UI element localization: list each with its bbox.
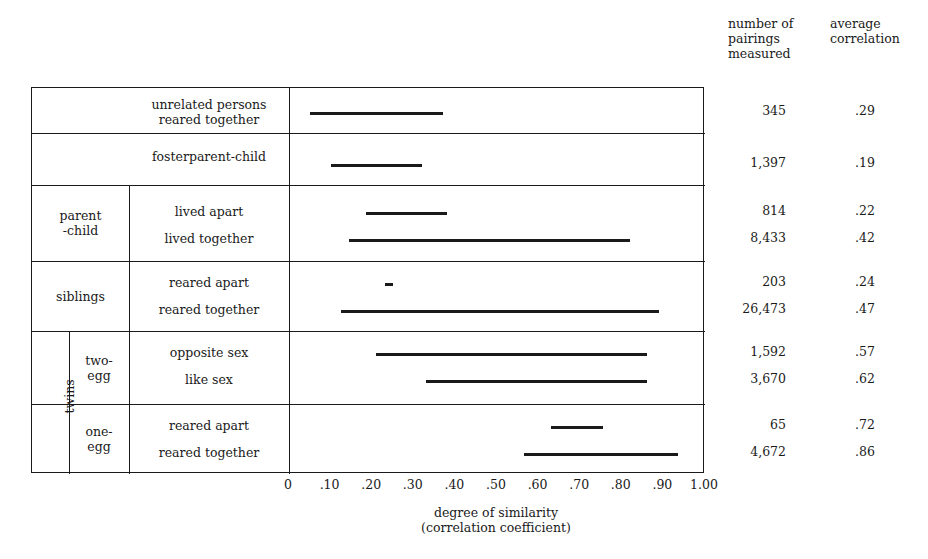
- range-bar: [341, 310, 659, 313]
- subgroup-label-two-egg: two- egg: [69, 331, 129, 404]
- cell-pairings: 345: [706, 103, 786, 118]
- cell-correlation: .29: [815, 103, 875, 118]
- range-bar: [524, 453, 678, 456]
- cell-pairings: 1,397: [706, 155, 786, 170]
- axis-tick-label: .50: [476, 478, 516, 492]
- row-label-unrelated: unrelated persons reared together: [129, 97, 289, 127]
- similarity-correlation-chart: number of pairings measured average corr…: [0, 0, 928, 559]
- cell-correlation: .42: [815, 230, 875, 245]
- x-axis-caption: degree of similarity (correlation coeffi…: [288, 505, 704, 535]
- column-header-correlation: average correlation: [830, 16, 922, 46]
- cell-correlation: .86: [815, 444, 875, 459]
- cell-correlation: .62: [815, 371, 875, 386]
- cell-correlation: .22: [815, 203, 875, 218]
- cell-pairings: 203: [706, 274, 786, 289]
- row-label-one-reared-together: reared together: [129, 445, 289, 460]
- column-header-pairings: number of pairings measured: [728, 16, 824, 61]
- cell-pairings: 26,473: [706, 301, 786, 316]
- row-label-one-reared-apart: reared apart: [129, 418, 289, 433]
- cell-correlation: .72: [815, 417, 875, 432]
- row-label-lived-apart: lived apart: [129, 204, 289, 219]
- axis-tick-label: .90: [642, 478, 682, 492]
- row-label-sib-reared-together: reared together: [129, 302, 289, 317]
- range-bar: [331, 164, 423, 167]
- row-label-fosterparent-child: fosterparent-child: [129, 149, 289, 164]
- cell-correlation: .24: [815, 274, 875, 289]
- cell-pairings: 65: [706, 417, 786, 432]
- range-bar: [385, 283, 393, 286]
- axis-tick-label: .40: [434, 478, 474, 492]
- range-bar: [310, 112, 443, 115]
- cell-correlation: .19: [815, 155, 875, 170]
- axis-tick-label: 0: [268, 478, 308, 492]
- cell-correlation: .57: [815, 344, 875, 359]
- cell-pairings: 8,433: [706, 230, 786, 245]
- range-bar: [376, 353, 646, 356]
- cell-correlation: .47: [815, 301, 875, 316]
- axis-tick-label: .70: [559, 478, 599, 492]
- row-label-opposite-sex: opposite sex: [129, 345, 289, 360]
- cell-pairings: 1,592: [706, 344, 786, 359]
- cell-pairings: 814: [706, 203, 786, 218]
- range-bar: [349, 239, 630, 242]
- plot-area: [289, 88, 705, 474]
- axis-tick-label: 1.00: [684, 478, 724, 492]
- cell-pairings: 4,672: [706, 444, 786, 459]
- chart-table-frame: parent -child siblings twins two- egg on…: [31, 87, 704, 473]
- row-label-like-sex: like sex: [129, 372, 289, 387]
- subgroup-label-one-egg: one- egg: [69, 404, 129, 474]
- x-axis-ticks: 0.10.20.30.40.50.60.70.80.901.00: [288, 478, 704, 496]
- group-label-parent-child: parent -child: [32, 185, 129, 261]
- axis-tick-label: .20: [351, 478, 391, 492]
- axis-tick-label: .30: [393, 478, 433, 492]
- range-bar: [366, 212, 447, 215]
- axis-tick-label: .80: [601, 478, 641, 492]
- axis-tick-label: .60: [518, 478, 558, 492]
- row-label-sib-reared-apart: reared apart: [129, 275, 289, 290]
- range-bar: [426, 380, 646, 383]
- row-label-lived-together: lived together: [129, 231, 289, 246]
- axis-tick-label: .10: [310, 478, 350, 492]
- cell-pairings: 3,670: [706, 371, 786, 386]
- range-bar: [551, 426, 603, 429]
- group-label-siblings: siblings: [32, 261, 129, 331]
